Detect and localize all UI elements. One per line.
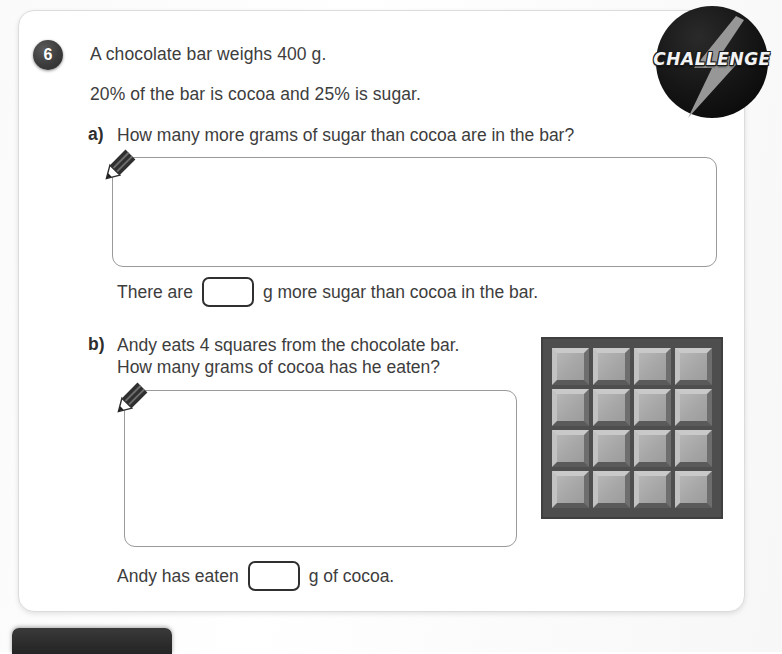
part-a-question-text: How many more grams of sugar than cocoa … <box>117 124 574 146</box>
part-b-answer-sentence: Andy has eaten g of cocoa. <box>117 561 394 591</box>
part-a-working-box[interactable] <box>112 157 717 267</box>
chocolate-square <box>675 389 712 426</box>
chocolate-square <box>552 348 589 385</box>
chocolate-square <box>593 471 630 508</box>
part-b-question-text: Andy eats 4 squares from the chocolate b… <box>117 334 459 378</box>
chocolate-square <box>634 389 671 426</box>
part-b-answer-prefix: Andy has eaten <box>117 566 239 587</box>
chocolate-square <box>675 430 712 467</box>
question-stem-line-2: 20% of the bar is cocoa and 25% is sugar… <box>90 84 421 105</box>
chocolate-bar-image <box>541 337 723 519</box>
part-b-working-box[interactable] <box>124 390 517 547</box>
bottom-page-tab <box>12 628 172 654</box>
chocolate-square <box>634 348 671 385</box>
question-stem-line-1: A chocolate bar weighs 400 g. <box>90 44 326 65</box>
part-a-answer-prefix: There are <box>117 282 193 303</box>
chocolate-square <box>552 430 589 467</box>
chocolate-square <box>593 389 630 426</box>
chocolate-square <box>675 471 712 508</box>
part-b-answer-suffix: g of cocoa. <box>309 566 395 587</box>
chocolate-square <box>675 348 712 385</box>
challenge-badge-graphic <box>648 2 776 124</box>
part-a-answer-box[interactable] <box>202 277 254 307</box>
part-a-answer-suffix: g more sugar than cocoa in the bar. <box>263 282 538 303</box>
challenge-badge: CHALLENGE <box>648 2 776 124</box>
part-a-answer-sentence: There are g more sugar than cocoa in the… <box>117 277 538 307</box>
chocolate-square <box>634 430 671 467</box>
part-b-answer-box[interactable] <box>248 561 300 591</box>
question-number-badge: 6 <box>33 40 63 70</box>
chocolate-square <box>593 348 630 385</box>
part-a-label: a) <box>88 124 104 145</box>
part-b-label: b) <box>88 334 105 355</box>
chocolate-square <box>552 471 589 508</box>
chocolate-square <box>593 430 630 467</box>
chocolate-square <box>552 389 589 426</box>
chocolate-square <box>634 471 671 508</box>
